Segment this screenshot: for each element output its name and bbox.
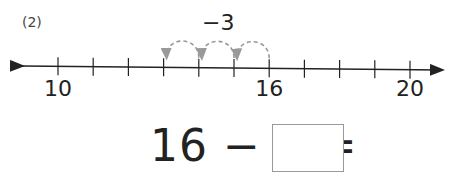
tick-label-16: 16 [255,76,283,101]
answer-box[interactable] [272,124,344,172]
tick-label-10: 10 [44,76,72,101]
tick-label-20: 20 [396,76,424,101]
jump-arc [202,41,234,58]
jump-arcs [167,41,270,58]
jump-arc [237,42,269,59]
number-line-exercise: (2) −3 101620 16 − 3 = [0,0,469,181]
axis-line [22,66,442,70]
jump-arc [167,41,199,58]
ticks [58,57,410,78]
